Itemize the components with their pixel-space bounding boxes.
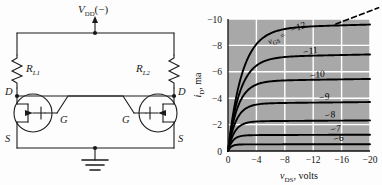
y-tick-label: −4: [212, 94, 222, 104]
plot-area-rect: [228, 19, 370, 151]
y-tick-label: −8: [212, 41, 222, 51]
fet-drain-characteristics-chart: 0−4−8−12−16−200−2−4−6−8−10 −12−11−10−9−8…: [191, 0, 382, 185]
y-tick-label: 0: [217, 147, 222, 157]
figure-root: VDD(−) RL1 RL2 D S G D S G: [0, 0, 382, 185]
x-tick-label: −12: [306, 155, 321, 165]
x-axis-title: vDS, volts: [280, 170, 318, 184]
fet2-gate-arrow: [158, 110, 166, 116]
fet2-drain-label: D: [177, 86, 186, 97]
resistor-rl2-label: RL2: [135, 62, 151, 76]
curve-label-vgs--6: −6: [332, 133, 345, 145]
resistor-rl1-label: RL1: [25, 62, 40, 76]
plot-background: [228, 19, 370, 151]
x-tick-label: −20: [363, 155, 378, 165]
x-tick-label: −4: [251, 155, 261, 165]
supply-arrow-head: [92, 16, 98, 23]
supply-label: VDD(−): [78, 3, 108, 17]
circuit-svg: VDD(−) RL1 RL2 D S G D S G: [0, 0, 191, 185]
x-tick-label: −16: [334, 155, 349, 165]
fet2-source-label: S: [178, 133, 184, 144]
fet1-source-label: S: [5, 133, 11, 144]
x-tick-label: 0: [226, 155, 231, 165]
resistor-rl1-zigzag: [12, 55, 22, 88]
y-axis-title: iD, ma: [192, 72, 206, 98]
x-tick-label: −8: [280, 155, 290, 165]
y-tick-label: −6: [212, 67, 222, 77]
cross-wire-left-gate-to-right-drain: [57, 96, 174, 113]
fet1-gate-arrow: [25, 110, 33, 116]
cross-wire-right-gate-to-left-drain: [17, 96, 134, 113]
fet1-drain-label: D: [4, 86, 13, 97]
curve-label-vgs--8: −8: [323, 109, 336, 121]
flip-flop-fet-circuit-diagram: VDD(−) RL1 RL2 D S G D S G: [0, 0, 191, 185]
chart-svg: 0−4−8−12−16−200−2−4−6−8−10 −12−11−10−9−8…: [191, 0, 382, 185]
y-tick-label: −2: [212, 120, 222, 130]
fet1-gate-label: G: [60, 114, 68, 125]
resistor-rl2-zigzag: [169, 55, 179, 88]
y-tick-label: −10: [207, 15, 222, 25]
curve-label-vgs--9: −9: [318, 91, 331, 103]
fet2-gate-label: G: [122, 114, 130, 125]
